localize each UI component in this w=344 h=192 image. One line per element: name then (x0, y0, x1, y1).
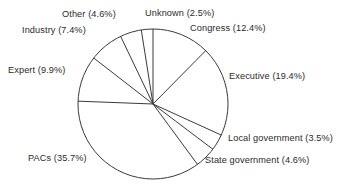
pie-label-industry: Industry (7.4%) (22, 25, 86, 36)
pie-label-expert: Expert (9.9%) (8, 65, 65, 76)
pie-slice-divider-industry (94, 58, 153, 104)
pie-label-unknown: Unknown (2.5%) (145, 8, 214, 19)
pie-slice-divider-pacs (153, 104, 197, 164)
pie-label-executive: Executive (19.4%) (229, 71, 305, 82)
pie-label-state-government: State government (4.6%) (205, 155, 309, 166)
pie-slice-divider-executive (153, 51, 206, 104)
pie-label-pacs: PACs (35.7%) (28, 153, 87, 164)
pie-label-congress: Congress (12.4%) (190, 23, 266, 34)
pie-slice-divider-expert (78, 101, 153, 104)
pie-label-other: Other (4.6%) (62, 9, 116, 20)
pie-slice-dividers (78, 29, 221, 164)
pie-chart-figure: Unknown (2.5%) Congress (12.4%) Executiv… (0, 0, 344, 192)
pie-label-local-government: Local government (3.5%) (228, 133, 333, 144)
